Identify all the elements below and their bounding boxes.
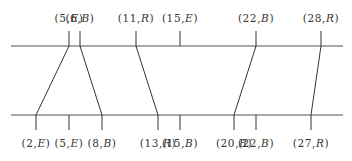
connection-line	[80, 46, 102, 115]
bottom-point-label: (27,R)	[293, 137, 329, 149]
bottom-labels: (2,E)(5,E)(8,B)(13,R)(15,B)(20,B)(22,B)(…	[22, 137, 330, 149]
top-point-label: (6,B)	[66, 12, 95, 24]
bottom-ticks	[36, 115, 311, 130]
connection-line	[311, 46, 321, 115]
top-point-label: (28,R)	[303, 12, 339, 24]
top-point-label: (11,R)	[118, 12, 154, 24]
top-point-label: (15,E)	[162, 12, 198, 24]
bottom-point-label: (8,B)	[88, 137, 117, 149]
connection-line	[234, 46, 256, 115]
bottom-point-label: (22,B)	[238, 137, 274, 149]
connection-line	[36, 46, 69, 115]
connection-line	[136, 46, 158, 115]
matching-diagram: (5,E)(6,B)(11,R)(15,E)(22,B)(28,R) (2,E)…	[0, 0, 352, 161]
bottom-point-label: (15,B)	[162, 137, 198, 149]
top-ticks	[69, 31, 321, 46]
bottom-point-label: (5,E)	[55, 137, 84, 149]
connections	[36, 46, 321, 115]
bottom-point-label: (2,E)	[22, 137, 51, 149]
top-point-label: (22,B)	[238, 12, 274, 24]
top-labels: (5,E)(6,B)(11,R)(15,E)(22,B)(28,R)	[55, 12, 340, 24]
